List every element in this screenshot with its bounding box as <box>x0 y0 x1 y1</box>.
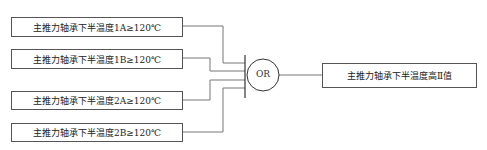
wire-input-3 <box>183 80 245 100</box>
or-gate-label: OR <box>247 69 279 79</box>
input-box-2a: 主推力轴承下半温度2A≥120℃ <box>11 91 183 110</box>
input-box-1a: 主推力轴承下半温度1A≥120℃ <box>11 17 183 37</box>
input-label-2b: 主推力轴承下半温度2B≥120℃ <box>33 126 161 139</box>
wire-input-4 <box>183 88 245 132</box>
wire-input-2 <box>183 58 245 71</box>
output-label: 主推力轴承下半温度高Ⅱ值 <box>347 69 452 82</box>
input-box-2b: 主推力轴承下半温度2B≥120℃ <box>11 123 183 142</box>
input-box-1b: 主推力轴承下半温度1B≥120℃ <box>11 49 183 69</box>
input-label-2a: 主推力轴承下半温度2A≥120℃ <box>33 94 161 107</box>
input-label-1b: 主推力轴承下半温度1B≥120℃ <box>33 53 161 66</box>
output-box: 主推力轴承下半温度高Ⅱ值 <box>322 63 477 88</box>
input-label-1a: 主推力轴承下半温度1A≥120℃ <box>33 21 161 34</box>
wire-input-1 <box>183 26 245 63</box>
